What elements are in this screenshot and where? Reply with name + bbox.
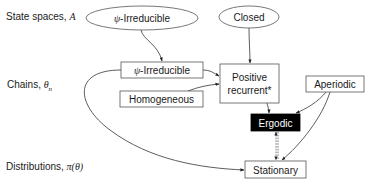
edge-aperiodic-to-ergodic	[296, 92, 326, 113]
node-label: Closed	[233, 12, 264, 23]
edge-closed-to-positive-recurrent	[249, 28, 250, 63]
node-ergodic[interactable]: Ergodic	[251, 114, 300, 131]
markov-chain-diagram: ψ-Irreducible Closed ψ-Irreducible Homog…	[0, 0, 377, 187]
node-label: Stationary	[253, 165, 298, 176]
edge-state-irreducible-to-chain-irreducible	[141, 30, 162, 61]
node-label: ψ-Irreducible	[114, 13, 171, 24]
node-label-line1: Positive	[232, 72, 267, 83]
edge-positive-recurrent-to-ergodic	[267, 103, 269, 113]
node-label: Homogeneous	[129, 94, 194, 105]
node-positive-recurrent[interactable]: Positive recurrent*	[220, 64, 279, 103]
node-label: Aperiodic	[314, 79, 356, 90]
node-homogeneous[interactable]: Homogeneous	[120, 91, 203, 107]
edge-chain-irreducible-to-positive-recurrent	[203, 70, 219, 76]
edge-homogeneous-to-positive-recurrent	[188, 84, 219, 91]
node-label: ψ-Irreducible	[134, 65, 191, 76]
node-aperiodic[interactable]: Aperiodic	[306, 76, 364, 92]
node-label-line2: recurrent*	[228, 85, 272, 96]
node-closed[interactable]: Closed	[219, 6, 279, 28]
node-label: Ergodic	[259, 118, 293, 129]
node-state-irreducible[interactable]: ψ-Irreducible	[86, 6, 198, 30]
box-shape	[220, 64, 279, 103]
node-chain-irreducible[interactable]: ψ-Irreducible	[121, 62, 203, 78]
node-stationary[interactable]: Stationary	[245, 161, 306, 178]
